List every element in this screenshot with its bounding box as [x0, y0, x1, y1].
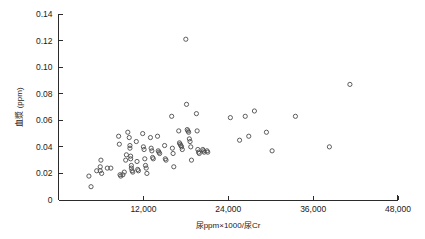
- data-point: [247, 134, 251, 138]
- data-point: [195, 129, 199, 133]
- axis-group: [59, 14, 399, 201]
- data-point: [264, 130, 268, 134]
- data-point: [155, 134, 159, 138]
- data-point: [150, 149, 154, 153]
- x-tick-label-group: 12,00024,00036,00048,000: [130, 204, 411, 214]
- data-point: [237, 138, 241, 142]
- y-tick-label: 0.14: [36, 9, 53, 19]
- x-tick-label: 36,000: [300, 204, 326, 214]
- data-point: [131, 170, 135, 174]
- data-point: [252, 109, 256, 113]
- data-point: [270, 149, 274, 153]
- data-point: [127, 135, 131, 139]
- data-point: [89, 185, 93, 189]
- scatter-plot-svg: 00.020.040.060.080.100.120.14 12,00024,0…: [0, 0, 425, 239]
- data-point: [124, 153, 128, 157]
- data-point: [99, 158, 103, 162]
- data-point: [170, 114, 174, 118]
- data-point: [184, 102, 188, 106]
- y-tick-label-group: 00.020.040.060.080.100.120.14: [36, 9, 53, 205]
- data-point: [180, 147, 184, 151]
- scatter-chart-figure: 00.020.040.060.080.100.120.14 12,00024,0…: [0, 0, 425, 239]
- y-tick-label: 0.02: [36, 168, 53, 178]
- data-point-group: [87, 37, 352, 189]
- y-tick-label: 0.04: [36, 142, 53, 152]
- y-tick-label: 0.06: [36, 115, 53, 125]
- x-tick-group: [143, 196, 398, 200]
- x-tick-label: 24,000: [215, 204, 241, 214]
- data-point: [117, 142, 121, 146]
- data-point: [197, 151, 201, 155]
- data-point: [243, 114, 247, 118]
- data-point: [141, 131, 145, 135]
- data-point: [129, 157, 133, 161]
- y-tick-label: 0: [48, 195, 53, 205]
- data-point: [164, 158, 168, 162]
- data-point: [162, 143, 166, 147]
- data-point: [143, 157, 147, 161]
- data-point: [134, 139, 138, 143]
- data-point: [126, 130, 130, 134]
- data-point: [293, 114, 297, 118]
- data-point: [148, 135, 152, 139]
- x-tick-label: 12,000: [130, 204, 156, 214]
- data-point: [124, 158, 128, 162]
- y-axis-title: 血漿 (ppm): [14, 87, 24, 126]
- data-point: [184, 37, 188, 41]
- data-point: [170, 146, 174, 150]
- data-point: [327, 145, 331, 149]
- y-tick-label: 0.12: [36, 36, 53, 46]
- x-axis-title: 尿ppm×1000/尿Cr: [196, 221, 261, 230]
- data-point: [145, 171, 149, 175]
- y-tick-label: 0.10: [36, 62, 53, 72]
- y-tick-label: 0.08: [36, 89, 53, 99]
- data-point: [228, 116, 232, 120]
- data-point: [189, 145, 193, 149]
- data-point: [144, 166, 148, 170]
- data-point: [177, 129, 181, 133]
- x-tick-label: 48,000: [385, 204, 411, 214]
- data-point: [348, 82, 352, 86]
- data-point: [171, 151, 175, 155]
- data-point: [135, 159, 139, 163]
- y-tick-group: [59, 14, 63, 200]
- data-point: [188, 139, 192, 143]
- data-point: [117, 134, 121, 138]
- data-point: [87, 174, 91, 178]
- data-point: [189, 158, 193, 162]
- data-point: [142, 147, 146, 151]
- data-point: [194, 112, 198, 116]
- data-point: [128, 146, 132, 150]
- data-point: [172, 165, 176, 169]
